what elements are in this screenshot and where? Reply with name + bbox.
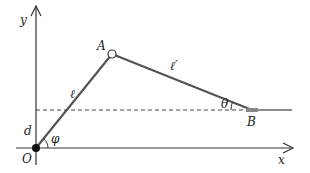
mechanism-diagram: y x O A B ℓ ℓ′ θ φ d — [0, 0, 310, 173]
link-l-label: ℓ — [70, 87, 75, 101]
y-axis — [31, 6, 41, 165]
x-axis-label: x — [278, 153, 285, 167]
offset-d-label: d — [24, 124, 32, 138]
theta-arc — [231, 102, 233, 110]
origin-label: O — [22, 152, 32, 166]
link-l-prime — [112, 54, 252, 110]
y-axis-label: y — [19, 13, 27, 27]
point-b-label: B — [246, 115, 256, 129]
slider-b-marker — [246, 108, 258, 112]
joint-a-icon — [108, 50, 116, 58]
point-a-label: A — [96, 39, 106, 53]
theta-label: θ — [221, 97, 229, 111]
link-l — [36, 54, 112, 148]
link-l-prime-label: ℓ′ — [170, 59, 178, 73]
phi-arc — [44, 139, 49, 148]
origin-pivot-icon — [32, 144, 40, 152]
phi-label: φ — [51, 132, 60, 146]
